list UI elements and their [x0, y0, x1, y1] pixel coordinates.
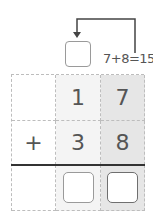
plus-operator: +	[12, 121, 56, 165]
answer-hundreds-cell	[12, 165, 56, 211]
answer-tens-input[interactable]	[63, 172, 94, 203]
answer-ones-input[interactable]	[107, 172, 138, 203]
tens-digit-row2: 3	[56, 121, 101, 165]
carry-input-box[interactable]	[65, 41, 91, 67]
ones-digit-row2: 8	[101, 121, 145, 165]
ones-digit-row1: 7	[101, 75, 145, 121]
operator-cell-empty	[12, 75, 56, 121]
carry-arrow-icon	[0, 0, 153, 80]
addition-grid: 1 7 + 3 8	[11, 74, 144, 211]
answer-ones-cell	[101, 165, 145, 211]
carry-equation: 7+8=15	[103, 51, 153, 66]
answer-tens-cell	[56, 165, 101, 211]
tens-digit-row1: 1	[56, 75, 101, 121]
sum-line	[11, 164, 145, 166]
